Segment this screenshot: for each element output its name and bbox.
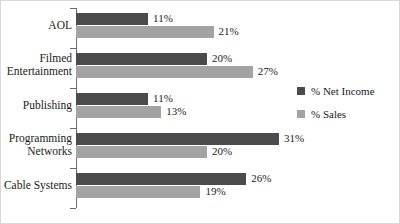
category-label: Publishing	[0, 99, 72, 112]
bar-row: 19%	[76, 186, 392, 198]
bar-row: 11%	[76, 13, 392, 25]
figure-border-top	[0, 0, 400, 1]
figure-border-bottom	[0, 223, 400, 224]
bar-row: 27%	[76, 66, 392, 78]
bar-chart-figure: AOLFilmed EntertainmentPublishingProgram…	[0, 0, 400, 224]
bar-sales	[76, 66, 253, 78]
bar-value-label: 21%	[219, 26, 239, 37]
bar-row: 20%	[76, 146, 392, 158]
legend-entry: % Net Income	[297, 85, 397, 97]
bar-net-income	[76, 53, 207, 65]
bar-sales	[76, 186, 200, 198]
legend-label: % Sales	[311, 109, 346, 120]
legend-swatch-icon	[297, 87, 305, 95]
bar-net-income	[76, 133, 279, 145]
category-label: Cable Systems	[0, 179, 72, 192]
legend-label: % Net Income	[311, 86, 375, 97]
bar-value-label: 20%	[212, 53, 232, 64]
bar-value-label: 19%	[205, 186, 225, 197]
category-label: AOL	[0, 19, 72, 32]
bar-row: 26%	[76, 173, 392, 185]
legend-entry: % Sales	[297, 108, 397, 120]
category-label: Filmed Entertainment	[0, 52, 72, 78]
bar-sales	[76, 26, 214, 38]
bar-net-income	[76, 13, 148, 25]
bar-value-label: 11%	[153, 13, 173, 24]
axis-tick	[70, 208, 76, 209]
bar-row: 20%	[76, 53, 392, 65]
bar-sales	[76, 106, 161, 118]
bar-value-label: 20%	[212, 146, 232, 157]
bar-value-label: 13%	[166, 106, 186, 117]
bar-row: 21%	[76, 26, 392, 38]
bar-net-income	[76, 93, 148, 105]
bar-sales	[76, 146, 207, 158]
bar-row: 31%	[76, 133, 392, 145]
bar-value-label: 26%	[251, 173, 271, 184]
chart-legend: % Net Income% Sales	[297, 85, 397, 131]
category-label: Programming Networks	[0, 132, 72, 158]
legend-swatch-icon	[297, 110, 305, 118]
bar-value-label: 31%	[284, 133, 304, 144]
bar-value-label: 27%	[258, 66, 278, 77]
bar-net-income	[76, 173, 246, 185]
bar-value-label: 11%	[153, 93, 173, 104]
